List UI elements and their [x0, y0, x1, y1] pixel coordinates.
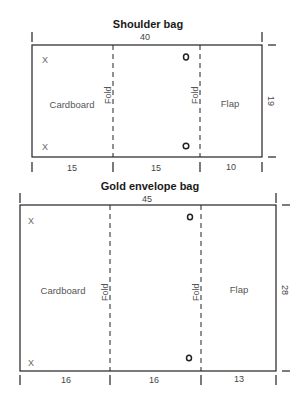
gold-envelope-bag-title: Gold envelope bag	[101, 180, 199, 192]
shoulder-bag-pattern: Shoulder bag 40 Fold Fold Cardboard Flap…	[32, 18, 276, 173]
fold-label-1: Fold	[103, 86, 113, 104]
segment-2-dimension: 15	[151, 163, 161, 173]
hole-top	[184, 54, 189, 60]
segment-3-dimension: 10	[226, 162, 236, 172]
segment-1-dimension: 15	[67, 163, 77, 173]
bag-patterns-diagram: Shoulder bag 40 Fold Fold Cardboard Flap…	[0, 0, 300, 403]
segment-3-dimension: 13	[234, 374, 244, 384]
corner-mark-top: X	[42, 55, 48, 65]
gold-envelope-bag-pattern: Gold envelope bag 45 Fold Fold Cardboard…	[20, 180, 290, 385]
flap-label: Flap	[221, 98, 239, 109]
width-dimension: 40	[140, 32, 150, 42]
corner-mark-bottom: X	[28, 358, 34, 368]
cardboard-label: Cardboard	[41, 285, 86, 296]
flap-label: Flap	[230, 284, 248, 295]
fold-label-2: Fold	[190, 86, 200, 104]
fold-label-2: Fold	[191, 283, 201, 301]
height-dimension: 19	[266, 96, 276, 106]
width-dimension: 45	[142, 194, 152, 204]
hole-top	[188, 214, 193, 220]
shoulder-bag-title: Shoulder bag	[113, 18, 183, 30]
cardboard-label: Cardboard	[50, 99, 95, 110]
hole-bottom	[183, 143, 189, 149]
height-dimension: 28	[280, 285, 290, 295]
corner-mark-bottom: X	[42, 142, 48, 152]
segment-2-dimension: 16	[149, 375, 159, 385]
hole-bottom	[187, 355, 192, 361]
fold-label-1: Fold	[100, 283, 110, 301]
segment-1-dimension: 16	[61, 375, 71, 385]
corner-mark-top: X	[28, 216, 34, 226]
